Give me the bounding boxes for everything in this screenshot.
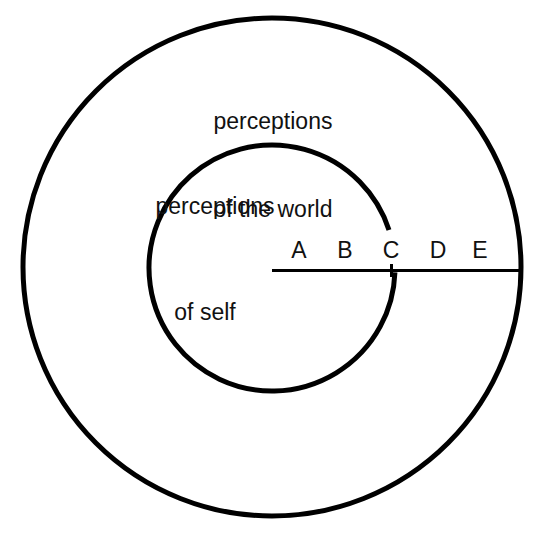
axis-tick-label-c: C [378,237,404,264]
inner-ring-label-line-1: perceptions [0,192,430,221]
axis-tick-label-e: E [467,237,493,264]
axis-tick-label-group: A B C D E [282,237,502,265]
diagram-canvas: perceptions of the world perceptions of … [0,0,536,540]
axis-tick-label-a: A [286,237,312,264]
axis-tick-label-d: D [425,237,451,264]
axis-tick-label-b: B [332,237,358,264]
inner-ring-label-line-2: of self [0,298,410,327]
outer-ring-label-line-1: perceptions [0,107,536,136]
